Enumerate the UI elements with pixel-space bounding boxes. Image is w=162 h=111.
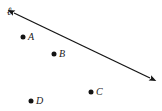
point-dot-b [52,52,57,57]
point-dot-d [29,99,34,104]
point-label-b: B [59,49,65,59]
geometry-figure: ℓ A B C D [0,0,162,111]
point-label-d: D [36,96,43,106]
line-arrow-svg [0,0,162,111]
point-dot-a [21,35,26,40]
point-dot-c [89,90,94,95]
point-label-a: A [28,32,34,42]
point-label-c: C [96,87,103,97]
line-label-l: ℓ [7,6,12,17]
line-l [14,13,150,78]
